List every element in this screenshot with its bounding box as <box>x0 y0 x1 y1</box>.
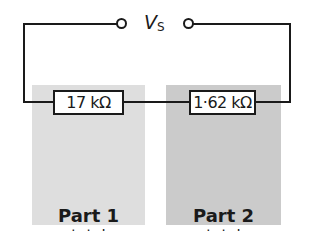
part-2-title: Part 2 <box>166 205 281 227</box>
resistor-part-2-value: 1·62 kΩ <box>193 93 252 112</box>
wire-bottom-left <box>23 101 55 103</box>
supply-voltage-label: VS <box>144 11 165 34</box>
wire-top-left <box>23 23 118 25</box>
part-1-caption: Part 1 total resistance in series <box>32 205 145 231</box>
resistor-part-1: 17 kΩ <box>53 90 124 115</box>
wire-bottom-middle <box>124 101 190 103</box>
wire-right-vertical <box>289 23 291 103</box>
wire-top-right <box>193 23 291 25</box>
wire-bottom-right <box>256 101 291 103</box>
part-2-line-1: total <box>166 227 281 231</box>
part-1-line-1: total <box>32 227 145 231</box>
terminal-right-icon <box>183 18 194 29</box>
wire-left-vertical <box>23 23 25 103</box>
terminal-left-icon <box>116 18 127 29</box>
part-1-title: Part 1 <box>32 205 145 227</box>
resistor-part-2: 1·62 kΩ <box>189 90 256 115</box>
part-2-caption: Part 2 total resistance in parallel <box>166 205 281 231</box>
resistor-part-1-value: 17 kΩ <box>66 93 110 112</box>
